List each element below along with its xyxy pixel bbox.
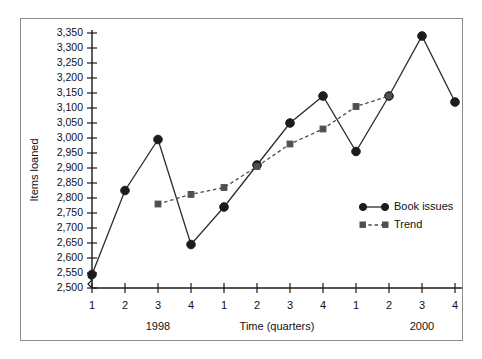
- x-tick-label: 3: [155, 299, 161, 311]
- y-tick-label: 3,300: [57, 41, 83, 53]
- y-tick-label: 2,900: [57, 161, 83, 173]
- data-point-book-issues: [451, 98, 460, 107]
- data-point-book-issues: [352, 147, 361, 156]
- y-tick-label: 2,800: [57, 191, 83, 203]
- data-point-book-issues: [220, 203, 229, 212]
- data-point-trend: [386, 93, 392, 99]
- x-axis-group-label-1998: 1998: [146, 320, 170, 332]
- y-tick-label: 2,700: [57, 221, 83, 233]
- y-tick-label: 2,600: [57, 251, 83, 263]
- data-point-book-issues: [319, 92, 328, 101]
- data-point-book-issues: [121, 186, 130, 195]
- x-axis-title: Time (quarters): [240, 320, 315, 332]
- legend-marker-book-issues-right: [381, 203, 388, 210]
- data-point-trend: [353, 104, 359, 110]
- data-point-trend: [155, 201, 161, 207]
- legend-label-book-issues: Book issues: [394, 200, 454, 212]
- legend-label-trend: Trend: [394, 218, 422, 230]
- y-tick-label: 3,250: [57, 56, 83, 68]
- x-tick-label: 3: [419, 299, 425, 311]
- x-tick-label: 1: [89, 299, 95, 311]
- data-point-book-issues: [286, 119, 295, 128]
- y-axis-title: Items loaned: [28, 139, 40, 202]
- x-tick-label: 4: [188, 299, 194, 311]
- x-tick-label: 2: [122, 299, 128, 311]
- data-point-trend: [254, 164, 260, 170]
- data-point-book-issues: [418, 32, 427, 41]
- x-tick-label: 2: [254, 299, 260, 311]
- y-tick-label: 3,200: [57, 71, 83, 83]
- line-chart-figure: 3,3503,3003,2503,2003,1503,1003,0503,000…: [0, 0, 482, 359]
- y-tick-label: 2,950: [57, 146, 83, 158]
- x-tick-label: 3: [287, 299, 293, 311]
- x-tick-label: 2: [386, 299, 392, 311]
- data-point-book-issues: [88, 270, 97, 279]
- x-tick-label: 1: [221, 299, 227, 311]
- legend-marker-trend-right: [383, 222, 388, 227]
- legend-marker-book-issues-left: [359, 203, 366, 210]
- data-point-book-issues: [187, 240, 196, 249]
- x-axis-group-label-2000: 2000: [410, 320, 434, 332]
- y-tick-label: 3,000: [57, 131, 83, 143]
- legend-marker-trend-left: [360, 222, 365, 227]
- y-tick-label: 2,500: [57, 281, 83, 293]
- data-point-trend: [287, 141, 293, 147]
- data-point-book-issues: [154, 135, 163, 144]
- y-tick-label: 2,650: [57, 236, 83, 248]
- x-tick-label: 4: [452, 299, 458, 311]
- chart-frame: [21, 19, 463, 341]
- y-tick-label: 3,050: [57, 116, 83, 128]
- y-tick-label: 2,550: [57, 266, 83, 278]
- x-tick-label: 4: [320, 299, 326, 311]
- y-tick-label: 3,150: [57, 86, 83, 98]
- data-point-trend: [221, 185, 227, 191]
- y-tick-label: 2,750: [57, 206, 83, 218]
- y-tick-label: 2,850: [57, 176, 83, 188]
- y-tick-label: 3,350: [57, 26, 83, 38]
- data-point-trend: [320, 126, 326, 132]
- data-point-trend: [188, 192, 194, 198]
- x-tick-label: 1: [353, 299, 359, 311]
- y-tick-label: 3,100: [57, 101, 83, 113]
